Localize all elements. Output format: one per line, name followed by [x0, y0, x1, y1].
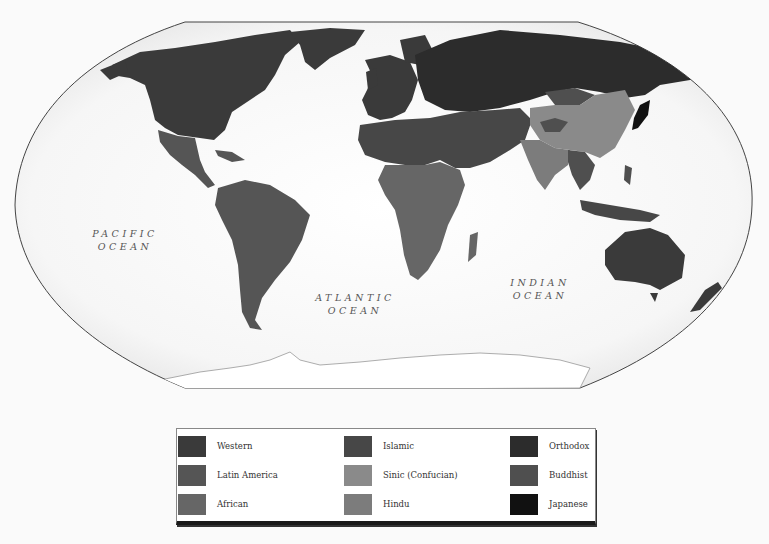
legend-swatch: [178, 436, 206, 457]
legend-item-orthodox: Orthodox: [510, 435, 589, 457]
ocean-label-line2: OCEAN: [80, 240, 170, 253]
legend-item-buddhist: Buddhist: [510, 464, 588, 486]
legend-label: Islamic: [383, 441, 414, 451]
legend-item-african: African: [178, 493, 248, 515]
ocean-label-line2: OCEAN: [490, 289, 590, 302]
legend-swatch: [510, 436, 538, 457]
legend-label: Western: [217, 441, 252, 451]
legend-swatch: [178, 494, 206, 515]
ocean-label-line1: INDIAN: [490, 276, 590, 289]
legend-label: African: [217, 499, 248, 509]
legend-swatch: [510, 494, 538, 515]
legend-item-latin-america: Latin America: [178, 464, 278, 486]
legend-item-sinic: Sinic (Confucian): [344, 464, 458, 486]
pacific-ocean-label: PACIFIC OCEAN: [80, 227, 170, 253]
atlantic-ocean-label: ATLANTIC OCEAN: [305, 291, 405, 317]
legend-item-hindu: Hindu: [344, 493, 410, 515]
world-map: PACIFIC OCEAN ATLANTIC OCEAN INDIAN OCEA…: [0, 0, 769, 410]
legend: Western Latin America African Islamic Si…: [176, 428, 596, 525]
world-map-svg: [0, 0, 769, 410]
legend-label: Orthodox: [549, 441, 589, 451]
legend-label: Hindu: [383, 499, 410, 509]
legend-item-western: Western: [178, 435, 252, 457]
legend-item-japanese: Japanese: [510, 493, 588, 515]
indian-ocean-label: INDIAN OCEAN: [490, 276, 590, 302]
ocean-label-line2: OCEAN: [305, 304, 405, 317]
legend-swatch: [344, 465, 372, 486]
legend-swatch: [344, 494, 372, 515]
legend-label: Japanese: [549, 499, 588, 509]
legend-label: Sinic (Confucian): [383, 470, 458, 480]
ocean-label-line1: PACIFIC: [80, 227, 170, 240]
legend-swatch: [510, 465, 538, 486]
legend-swatch: [178, 465, 206, 486]
legend-swatch: [344, 436, 372, 457]
legend-label: Buddhist: [549, 470, 588, 480]
legend-label: Latin America: [217, 470, 278, 480]
ocean-label-line1: ATLANTIC: [305, 291, 405, 304]
legend-item-islamic: Islamic: [344, 435, 414, 457]
